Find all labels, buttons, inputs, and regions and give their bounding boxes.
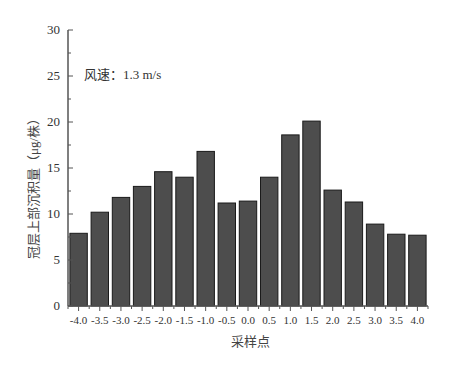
bar — [91, 212, 108, 306]
y-tick-label: 0 — [30, 298, 60, 314]
bar — [409, 235, 426, 306]
bar — [324, 190, 341, 306]
bar — [239, 201, 256, 306]
bar — [388, 234, 405, 306]
bar — [345, 202, 362, 306]
plot-area — [0, 0, 452, 365]
bar — [133, 186, 150, 306]
bar — [197, 151, 214, 306]
bar — [70, 233, 87, 306]
bar-chart: 051015202530 -4.0-3.5-3.0-2.5-2.0-1.5-1.… — [0, 0, 452, 365]
bar — [303, 121, 320, 306]
wind-speed-annotation: 风速：1.3 m/s — [84, 64, 161, 83]
bar — [112, 197, 129, 306]
bar — [218, 203, 235, 306]
bar — [261, 177, 278, 306]
x-tick-label: 4.0 — [405, 314, 429, 326]
bar — [155, 172, 172, 306]
y-tick-label: 30 — [30, 22, 60, 38]
y-axis-label: 冠层上部沉积量（μg/株） — [23, 76, 42, 296]
bar — [176, 177, 193, 306]
x-axis-label: 采样点 — [200, 331, 300, 350]
bar — [282, 135, 299, 306]
bar — [366, 224, 383, 306]
